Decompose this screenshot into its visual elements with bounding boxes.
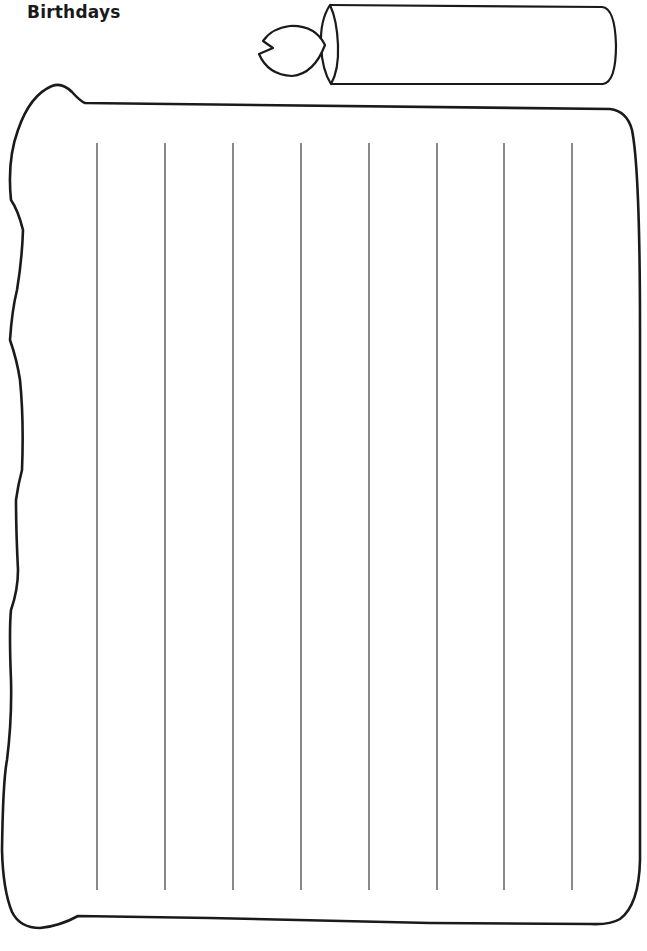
scroll-banner-icon: [2, 85, 640, 928]
page-artwork: [0, 0, 647, 951]
column-dividers: [97, 143, 572, 890]
flame-icon: [259, 26, 325, 76]
candle-icon: [321, 5, 616, 84]
